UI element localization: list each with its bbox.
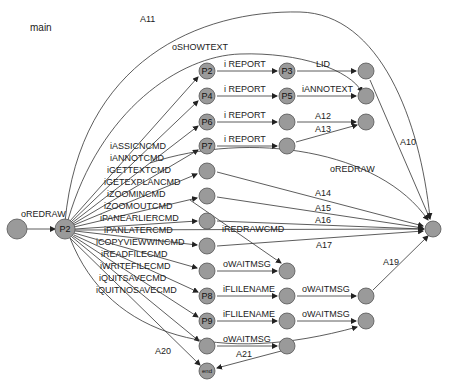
svg-text:iZOOMINCMD: iZOOMINCMD: [107, 189, 166, 199]
node-end: end: [199, 363, 215, 379]
label-a11: A11: [140, 14, 155, 24]
label-a15: A15: [315, 203, 331, 213]
node-c1-8: [199, 263, 215, 279]
node-c3-2: [358, 114, 374, 130]
label-oredraw2: oREDRAW: [330, 164, 375, 174]
svg-text:P4: P4: [201, 91, 212, 101]
svg-text:iQUITNOSAVECMD: iQUITNOSAVECMD: [96, 285, 177, 295]
svg-text:P2: P2: [201, 66, 212, 76]
diagram-title: main: [30, 22, 52, 33]
svg-text:iANNOTCMD: iANNOTCMD: [110, 153, 164, 163]
node-c3-0: [358, 63, 374, 79]
label-row1a: i REPORT: [224, 84, 266, 94]
node-c1-p8: P8: [199, 288, 215, 304]
edge-a10: [370, 80, 430, 219]
node-c2-p5: P5: [279, 88, 295, 104]
node-c3-1: [358, 88, 374, 104]
label-row11a: oWAITMSG: [223, 334, 271, 344]
label-row0b: LID: [316, 59, 331, 69]
label-a19: A19: [383, 257, 399, 267]
label-a21: A21: [236, 349, 252, 359]
node-c2-8: [279, 263, 295, 279]
node-c2-3: [279, 138, 295, 154]
svg-text:P8: P8: [201, 291, 212, 301]
svg-text:iGETTEXTCMD: iGETTEXTCMD: [107, 165, 171, 175]
svg-text:iWRITEFILECMD: iWRITEFILECMD: [100, 261, 171, 271]
node-c1-p6: P6: [199, 114, 215, 130]
label-row8a: oWAITMSG: [223, 259, 271, 269]
fan-labels: iASSICNCMD iANNOTCMD iGETTEXTCMD iGETEXP…: [96, 141, 185, 295]
label-a20: A20: [155, 346, 171, 356]
svg-text:P2: P2: [59, 224, 70, 234]
node-p2-main: P2: [55, 219, 75, 239]
label-row3b: A13: [315, 124, 331, 134]
svg-text:iASSICNCMD: iASSICNCMD: [110, 141, 167, 151]
svg-text:P3: P3: [281, 66, 292, 76]
svg-text:iCOPYVIEWWINCMD: iCOPYVIEWWINCMD: [96, 237, 185, 247]
label-row9b: oWAITMSG: [302, 284, 350, 294]
svg-text:end: end: [202, 368, 212, 374]
label-row3a: i REPORT: [224, 134, 266, 144]
svg-text:iGETEXPLANCMD: iGETEXPLANCMD: [104, 177, 181, 187]
node-c2-p3: P3: [279, 63, 295, 79]
node-c1-p2: P2: [199, 63, 215, 79]
svg-text:iQUITSAVECMD: iQUITSAVECMD: [99, 273, 167, 283]
node-c3-9: [358, 288, 374, 304]
node-c2-9: [279, 288, 295, 304]
node-c2-2: [279, 114, 295, 130]
label-a17: A17: [316, 240, 332, 250]
label-oredraw: oREDRAW: [21, 209, 66, 219]
label-oshowtext: oSHOWTEXT: [172, 42, 229, 52]
node-start: [7, 219, 27, 239]
label-row1b: iANNOTEXT: [302, 84, 354, 94]
label-a16: A16: [315, 215, 331, 225]
node-c1-7: [199, 238, 215, 254]
node-c1-p4: P4: [199, 88, 215, 104]
node-c1-p7: P7: [199, 138, 215, 154]
label-row10b: oWAITMSG: [302, 309, 350, 319]
node-c1-4: [199, 163, 215, 179]
svg-text:iREADFILECMD: iREADFILECMD: [101, 249, 168, 259]
edge-oredraw2: [150, 147, 428, 220]
node-c1-p9: P9: [199, 313, 215, 329]
svg-text:iPANLATERCMD: iPANLATERCMD: [104, 225, 173, 235]
label-row2b: A12: [315, 111, 331, 121]
edge-a19: [373, 236, 428, 290]
node-c1-11: [199, 338, 215, 354]
node-c2-11: [279, 338, 295, 354]
label-a10: A10: [400, 137, 416, 147]
svg-text:P6: P6: [201, 117, 212, 127]
label-row10a: iFLILENAME: [223, 309, 275, 319]
node-final: [425, 221, 441, 237]
svg-text:P5: P5: [281, 91, 292, 101]
node-c2-10: [279, 313, 295, 329]
svg-text:iZOOMOUTCMD: iZOOMOUTCMD: [104, 201, 173, 211]
node-c3-10: [358, 313, 374, 329]
label-row2a: i REPORT: [224, 110, 266, 120]
label-row9a: iFLILENAME: [223, 284, 275, 294]
svg-text:iPANEARLIERCMD: iPANEARLIERCMD: [100, 213, 179, 223]
label-a14: A14: [315, 188, 331, 198]
node-c1-5: [199, 188, 215, 204]
svg-text:P7: P7: [201, 141, 212, 151]
state-diagram: main A11 oSHOWTEXT oREDRAW iASSICNCMD iA…: [0, 0, 451, 389]
node-c1-6: [199, 213, 215, 229]
svg-text:P9: P9: [201, 316, 212, 326]
label-row0a: i REPORT: [224, 59, 266, 69]
